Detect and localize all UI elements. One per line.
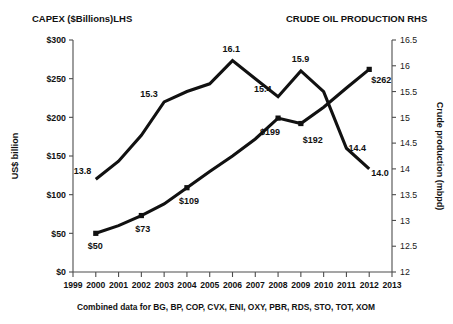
left-axis-label: US$ billion xyxy=(10,133,20,180)
point-label: $73 xyxy=(135,224,150,234)
x-axis-tick-label: 2013 xyxy=(382,280,401,290)
series-marker xyxy=(275,116,280,121)
right-axis-tick-label: 13 xyxy=(400,216,410,226)
left-axis-tick-label: $150 xyxy=(46,151,66,161)
right-axis-tick-label: 15.5 xyxy=(400,87,417,97)
series-marker xyxy=(139,213,144,218)
right-axis-tick-label: 16 xyxy=(400,61,410,71)
x-axis-tick-label: 2009 xyxy=(291,280,310,290)
chart-container: CAPEX ($Billions)LHS CRUDE OIL PRODUCTIO… xyxy=(0,0,453,324)
x-axis-tick-label: 2006 xyxy=(223,280,242,290)
left-axis-tick-label: $50 xyxy=(51,229,66,239)
right-axis-tick-label: 13.5 xyxy=(400,190,417,200)
point-label: $262 xyxy=(371,75,391,85)
point-label: $192 xyxy=(303,135,323,145)
right-axis-tick-label: 16.5 xyxy=(400,35,417,45)
point-label: 13.8 xyxy=(74,166,92,176)
point-label: 14.4 xyxy=(348,143,366,153)
x-axis-tick-label: 1999 xyxy=(63,280,82,290)
x-axis-tick-label: 2008 xyxy=(269,280,288,290)
left-axis-tick-label: $200 xyxy=(46,113,66,123)
right-axis-tick-label: 12 xyxy=(400,267,410,277)
left-axis-tick-label: $300 xyxy=(46,35,66,45)
right-axis-tick-label: 14.5 xyxy=(400,138,417,148)
x-axis-tick-label: 2005 xyxy=(200,280,219,290)
point-label: 14.0 xyxy=(371,168,389,178)
point-label: $199 xyxy=(260,127,280,137)
point-label: 16.1 xyxy=(223,44,241,54)
point-label: $109 xyxy=(179,196,199,206)
left-axis-tick-label: $250 xyxy=(46,74,66,84)
right-axis-title: CRUDE OIL PRODUCTION RHS xyxy=(286,13,427,24)
point-label: 15.3 xyxy=(140,89,158,99)
series-marker xyxy=(367,67,372,72)
x-axis-tick-label: 2001 xyxy=(109,280,128,290)
x-axis-tick-label: 2004 xyxy=(177,280,196,290)
series-marker xyxy=(184,185,189,190)
x-axis-tick-label: 2011 xyxy=(337,280,356,290)
combined-capex-crude-chart: CAPEX ($Billions)LHS CRUDE OIL PRODUCTIO… xyxy=(0,0,453,324)
x-axis-tick-label: 2000 xyxy=(86,280,105,290)
left-axis-title: CAPEX ($Billions)LHS xyxy=(32,13,132,24)
right-axis-tick-label: 14 xyxy=(400,164,410,174)
x-axis-tick-label: 2002 xyxy=(132,280,151,290)
x-axis-tick-label: 2003 xyxy=(155,280,174,290)
series-marker xyxy=(93,231,98,236)
footnote: Combined data for BG, BP, COP, CVX, ENI,… xyxy=(77,302,375,312)
left-axis-tick-label: $0 xyxy=(56,267,66,277)
left-axis-tick-label: $100 xyxy=(46,190,66,200)
point-label: $50 xyxy=(88,241,103,251)
x-axis-tick-label: 2012 xyxy=(360,280,379,290)
point-label: 15.9 xyxy=(292,54,310,64)
right-axis-tick-label: 15 xyxy=(400,113,410,123)
x-axis-tick-label: 2007 xyxy=(246,280,265,290)
right-axis-label: Crude production (mbpd) xyxy=(435,102,445,210)
x-axis-tick-label: 2010 xyxy=(314,280,333,290)
point-label: 15.4 xyxy=(254,84,272,94)
right-axis-tick-label: 12.5 xyxy=(400,241,417,251)
series-marker xyxy=(298,121,303,126)
